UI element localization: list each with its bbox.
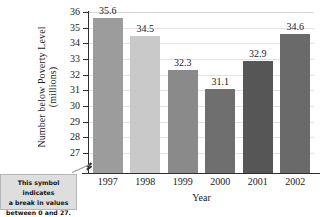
bar xyxy=(93,18,123,173)
x-axis-tick-label: 1999 xyxy=(163,176,203,187)
x-axis-tick-label: 2002 xyxy=(275,176,315,187)
x-axis-tick-label: 1997 xyxy=(88,176,128,187)
x-axis-line xyxy=(82,173,320,174)
bar-chart-figure: Number below Poverty Level (millions) 27… xyxy=(0,0,324,217)
y-axis-tick-label: 35 xyxy=(64,22,80,33)
y-axis-tick-label: 28 xyxy=(64,131,80,142)
x-axis-tick-label: 2001 xyxy=(238,176,278,187)
y-axis-tick-label: 32 xyxy=(64,69,80,80)
bar xyxy=(243,61,273,173)
y-axis-tick-label: 27 xyxy=(64,147,80,158)
bar xyxy=(130,36,160,173)
x-axis-tick-label: 1998 xyxy=(125,176,165,187)
y-axis-tick-label: 34 xyxy=(64,37,80,48)
bar-value-label: 35.6 xyxy=(88,5,128,16)
x-axis-tick-label: 2000 xyxy=(200,176,240,187)
axis-break-callout: This symbol indicates a break in values … xyxy=(0,174,77,210)
callout-line-3: between 0 and 27. xyxy=(1,208,76,217)
y-axis-tick-label: 30 xyxy=(64,100,80,111)
y-axis-title-line1: Number below Poverty Level xyxy=(36,26,47,147)
y-axis-tick-label: 29 xyxy=(64,116,80,127)
y-axis-tick-label: 36 xyxy=(64,6,80,17)
bar-value-label: 32.9 xyxy=(238,48,278,59)
bar-value-label: 32.3 xyxy=(163,57,203,68)
y-axis-tick-label: 33 xyxy=(64,53,80,64)
bar-value-label: 34.5 xyxy=(125,23,165,34)
bar xyxy=(280,34,310,173)
callout-line-2: a break in values xyxy=(1,198,76,208)
callout-line-1: This symbol indicates xyxy=(1,178,76,198)
y-axis-line xyxy=(88,11,89,173)
bar xyxy=(205,89,235,173)
x-axis-title: Year xyxy=(89,192,314,203)
bar-value-label: 34.6 xyxy=(275,21,315,32)
y-axis-tick-label: 31 xyxy=(64,84,80,95)
bar-value-label: 31.1 xyxy=(200,76,240,87)
y-axis-title-line2: (millions) xyxy=(47,26,58,147)
bar xyxy=(168,70,198,173)
y-axis-title: Number below Poverty Level (millions) xyxy=(38,12,56,162)
